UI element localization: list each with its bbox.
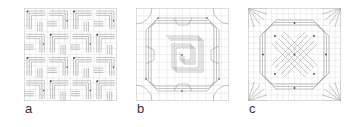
panel-b-crease-pattern bbox=[136, 8, 229, 101]
panel-b-label: b bbox=[137, 101, 144, 117]
panel-c-crease-pattern bbox=[248, 8, 341, 101]
panel-a-crease-pattern bbox=[24, 8, 117, 101]
panel-c-label: c bbox=[249, 101, 256, 117]
panel-a-label: a bbox=[25, 101, 32, 117]
